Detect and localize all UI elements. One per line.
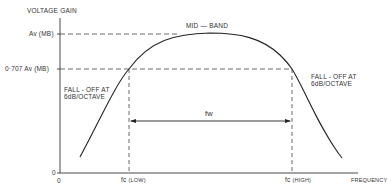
response-curve <box>80 33 342 158</box>
fall-off-left-line1: FALL - OFF AT <box>64 86 110 93</box>
origin-x-label: 0 <box>57 177 61 184</box>
y-axis-label: VOLTAGE GAIN <box>27 7 77 14</box>
fc-low-sub: (LOW) <box>128 177 145 183</box>
fall-off-left-line2: 6dB/OCTAVE <box>64 93 110 100</box>
bandwidth-label: fw <box>205 110 213 119</box>
fall-off-right-line2: 6dB/OCTAVE <box>311 80 357 87</box>
origin-y-label: 0 <box>52 169 56 176</box>
x-axis-label: FREQUENCY <box>351 177 387 183</box>
fc-low-main: fc <box>121 176 126 183</box>
av-707-label: 0·707 Av (MB) <box>5 65 49 72</box>
mid-band-label: MID — BAND <box>186 22 228 29</box>
arrowhead-left-icon <box>130 119 136 123</box>
fc-high-sub: (HIGH) <box>292 177 311 183</box>
av-mb-label: Av (MB) <box>29 30 54 37</box>
fall-off-left-label: FALL - OFF AT 6dB/OCTAVE <box>64 86 110 101</box>
fall-off-right-label: FALL - OFF AT 6dB/OCTAVE <box>311 73 357 88</box>
fc-low-label: fc (LOW) <box>121 176 146 183</box>
arrowhead-right-icon <box>285 119 291 123</box>
fc-high-main: fc <box>285 176 290 183</box>
fall-off-right-line1: FALL - OFF AT <box>311 73 357 80</box>
fc-high-label: fc (HIGH) <box>285 176 311 183</box>
